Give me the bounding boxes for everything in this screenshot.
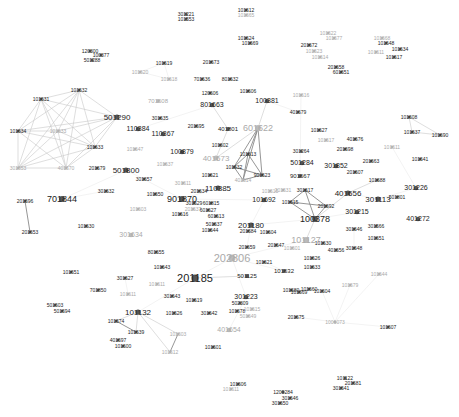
graph-node[interactable]: 120606 xyxy=(202,90,219,96)
graph-node[interactable]: 101690 xyxy=(432,132,449,138)
graph-node[interactable]: 201663 xyxy=(363,158,380,164)
graph-node[interactable]: 301653 xyxy=(10,165,27,171)
graph-node[interactable]: 301643 xyxy=(164,293,181,299)
graph-node[interactable]: 101604 xyxy=(314,288,331,294)
graph-node[interactable]: 101639 xyxy=(128,329,145,335)
graph-node[interactable]: 101641 xyxy=(412,156,429,162)
graph-node[interactable]: 201679 xyxy=(89,165,106,171)
graph-node[interactable]: 301264 xyxy=(293,148,310,154)
graph-node[interactable]: 501125 xyxy=(237,273,257,279)
graph-node[interactable]: 110384 xyxy=(127,125,150,132)
graph-node[interactable]: 201698 xyxy=(337,146,354,152)
graph-node[interactable]: 301215 xyxy=(345,208,368,215)
graph-node[interactable]: 101674 xyxy=(108,318,125,324)
graph-node[interactable]: 101611 xyxy=(120,291,137,297)
graph-node[interactable]: 301617 xyxy=(297,187,314,193)
graph-node[interactable]: 110385 xyxy=(205,184,232,193)
graph-node[interactable]: 101602 xyxy=(212,142,229,148)
graph-node[interactable]: 801663 xyxy=(200,101,223,108)
graph-node[interactable]: 101604 xyxy=(260,229,277,235)
graph-node[interactable]: 401801 xyxy=(218,126,239,132)
graph-node[interactable]: 201653 xyxy=(22,229,39,235)
graph-node[interactable]: 101603 xyxy=(170,331,187,337)
graph-node[interactable]: 301646 xyxy=(346,226,363,232)
graph-node[interactable]: 110367 xyxy=(152,130,175,137)
graph-node[interactable]: 101679 xyxy=(342,282,359,288)
graph-node[interactable]: 801632 xyxy=(222,76,239,82)
graph-node[interactable]: 101621 xyxy=(256,259,273,265)
graph-node[interactable]: 101692 xyxy=(252,196,275,203)
graph-node[interactable]: 601815 xyxy=(203,200,220,206)
graph-node[interactable]: 101617 xyxy=(318,137,335,143)
graph-node[interactable]: 201647 xyxy=(268,242,285,248)
graph-node[interactable]: 101601 xyxy=(205,344,222,350)
graph-node[interactable]: 901667 xyxy=(290,173,311,179)
graph-node[interactable]: 101651 xyxy=(368,235,385,241)
graph-node[interactable]: 101627 xyxy=(311,127,328,133)
graph-node[interactable]: 501800 xyxy=(113,166,140,175)
graph-node[interactable]: 101647 xyxy=(127,146,144,152)
graph-node[interactable]: 601622 xyxy=(243,123,273,133)
graph-node[interactable]: 1006073 xyxy=(325,319,345,325)
graph-node[interactable]: 101644 xyxy=(371,271,388,277)
graph-node[interactable]: 601651 xyxy=(333,69,350,75)
graph-node[interactable]: 101632 xyxy=(71,87,88,93)
graph-node[interactable]: 101626 xyxy=(304,255,321,261)
graph-node[interactable]: 100378 xyxy=(300,214,330,224)
graph-node[interactable]: 701636 xyxy=(194,76,211,82)
graph-node[interactable]: 401614 xyxy=(235,177,252,183)
graph-node[interactable]: 101621 xyxy=(202,172,219,178)
graph-node[interactable]: 101614 xyxy=(312,54,329,60)
graph-node[interactable]: 301634 xyxy=(119,231,142,238)
graph-node[interactable]: 101127 xyxy=(291,235,320,245)
graph-node[interactable]: 201185 xyxy=(177,272,213,284)
graph-node[interactable]: 101608 xyxy=(401,114,418,120)
graph-node[interactable]: 201673 xyxy=(203,59,220,65)
graph-node[interactable]: 101651 xyxy=(63,269,80,275)
graph-node[interactable]: 401673 xyxy=(203,154,230,163)
graph-node[interactable]: 101633 xyxy=(87,144,104,150)
graph-node[interactable]: 101611 xyxy=(223,386,240,392)
graph-node[interactable]: 301642 xyxy=(201,310,218,316)
graph-node[interactable]: 701850 xyxy=(90,287,107,293)
graph-node[interactable]: 101611 xyxy=(368,49,385,55)
graph-node[interactable]: 101607 xyxy=(380,324,397,330)
graph-node[interactable]: 401654 xyxy=(217,326,240,333)
graph-node[interactable]: 101669 xyxy=(291,289,308,295)
graph-node[interactable]: 301641 xyxy=(333,385,350,391)
graph-node[interactable]: 101615 xyxy=(282,199,299,205)
graph-node[interactable]: 101632 xyxy=(274,268,295,274)
graph-node[interactable]: 301226 xyxy=(404,184,427,191)
graph-node[interactable]: 101603 xyxy=(130,206,147,212)
graph-node[interactable]: 101132 xyxy=(125,308,152,317)
graph-node[interactable]: 201692 xyxy=(318,203,335,209)
graph-node[interactable]: 101637 xyxy=(404,129,421,135)
graph-node[interactable]: 801655 xyxy=(148,249,165,255)
graph-node[interactable]: 401656 xyxy=(335,189,362,198)
graph-node[interactable]: 101553 xyxy=(178,16,195,22)
graph-node[interactable]: 101632 xyxy=(226,164,243,170)
graph-node[interactable]: 101677 xyxy=(326,35,343,41)
graph-node[interactable]: 301566 xyxy=(368,223,385,229)
graph-node[interactable]: 301657 xyxy=(136,176,153,182)
graph-node[interactable]: 101619 xyxy=(186,297,203,303)
graph-node[interactable]: 101650 xyxy=(147,191,164,197)
graph-node[interactable]: 201659 xyxy=(239,244,256,250)
graph-node[interactable]: 201675 xyxy=(288,314,305,320)
graph-node[interactable]: 301650 xyxy=(272,400,289,406)
graph-node[interactable]: 101637 xyxy=(157,161,174,167)
graph-node[interactable]: 501649 xyxy=(240,313,257,319)
graph-node[interactable]: 101634 xyxy=(392,46,409,52)
graph-node[interactable]: 101643 xyxy=(154,264,171,270)
graph-node[interactable]: 101669 xyxy=(242,40,259,46)
graph-node[interactable]: 101617 xyxy=(386,54,403,60)
graph-node[interactable]: 101633 xyxy=(304,264,321,270)
graph-node[interactable]: 101619 xyxy=(156,60,173,66)
graph-node[interactable]: 101631 xyxy=(33,96,50,102)
graph-node[interactable]: 101644 xyxy=(202,227,219,233)
graph-node[interactable]: 401656 xyxy=(328,247,345,253)
graph-node[interactable]: 201634 xyxy=(191,188,208,194)
graph-node[interactable]: 701844 xyxy=(47,194,77,204)
graph-node[interactable]: 101634 xyxy=(10,128,27,134)
graph-node[interactable]: 100381 xyxy=(255,97,278,104)
